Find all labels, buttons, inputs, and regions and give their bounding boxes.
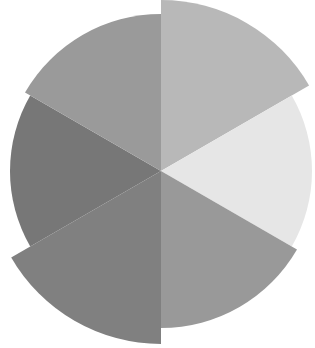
polar-area-chart: [0, 0, 315, 348]
chart-canvas: [0, 0, 315, 348]
